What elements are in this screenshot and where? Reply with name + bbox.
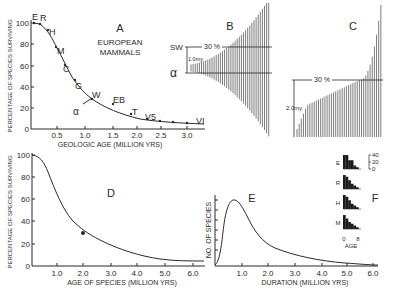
svg-text:20: 20: [20, 104, 29, 113]
svg-text:20: 20: [21, 240, 30, 249]
svg-text:2.0: 2.0: [77, 269, 89, 278]
panel-f-histograms: [343, 155, 361, 229]
svg-text:R: R: [336, 180, 341, 186]
panel-d-xlabel: AGE OF SPECIES (MILLION YRS): [67, 279, 177, 287]
svg-text:M: M: [336, 220, 341, 226]
panel-b-alpha: α: [170, 66, 177, 80]
svg-text:20: 20: [372, 159, 379, 165]
svg-text:60: 60: [21, 195, 30, 204]
panel-e-xlabel: DURATION (MILLION YRS): [262, 279, 349, 287]
svg-text:C: C: [63, 64, 70, 74]
panel-a-title-1: EUROPEAN: [98, 38, 143, 47]
svg-text:4.0: 4.0: [316, 269, 328, 278]
svg-text:8: 8: [356, 236, 360, 242]
panel-a: [31, 20, 205, 129]
svg-text:EB: EB: [113, 95, 125, 105]
panel-d-marker: [81, 231, 85, 235]
svg-text:G: G: [75, 81, 82, 91]
panel-c-label: C: [349, 20, 357, 32]
panel-a-title-2: MAMMALS: [100, 48, 140, 57]
svg-text:1.0: 1.0: [236, 269, 248, 278]
svg-text:6.0: 6.0: [187, 269, 199, 278]
svg-text:3.0: 3.0: [105, 269, 117, 278]
svg-text:1.5: 1.5: [107, 131, 119, 140]
panel-d-curve: [32, 155, 204, 261]
svg-text:80: 80: [20, 40, 29, 49]
svg-text:4.0: 4.0: [131, 269, 143, 278]
svg-text:5.0: 5.0: [159, 269, 171, 278]
panel-e-label: E: [248, 192, 255, 204]
panel-b-sw: SW: [170, 43, 183, 52]
panel-e-curve: [215, 200, 378, 265]
panel-a-y-ticklabels: 100 80 60 40 20 0: [16, 19, 30, 134]
svg-text:H: H: [336, 200, 340, 206]
panel-f-xlabel: AGE: [345, 243, 358, 249]
svg-text:T: T: [132, 107, 138, 117]
panel-f-label: F: [372, 192, 379, 204]
panel-a-alpha: α: [73, 106, 79, 117]
svg-text:3.0: 3.0: [181, 131, 193, 140]
panel-d-y-ticklabels: 100 80 60 40 20 0: [17, 151, 31, 271]
panel-d: [32, 153, 205, 266]
panel-a-xlabel: GEOLOGIC AGE (MILLION YRS): [58, 141, 163, 149]
panel-b-my: 1.0my: [188, 56, 203, 62]
svg-text:40: 40: [21, 217, 30, 226]
panel-f-y-ticklabels: 40 20 0: [372, 152, 379, 172]
panel-e-x-ticklabels: 1.0 2.0 3.0 4.0 5.0 6.0: [236, 269, 379, 278]
panel-b-label: B: [226, 20, 233, 32]
svg-text:0: 0: [372, 166, 376, 172]
svg-text:100: 100: [17, 151, 31, 160]
svg-text:M: M: [57, 46, 65, 56]
svg-text:VI: VI: [196, 116, 205, 126]
svg-text:0: 0: [25, 125, 30, 134]
panel-d-x-ticklabels: 1.0 2.0 3.0 4.0 5.0 6.0: [51, 269, 199, 278]
svg-text:H: H: [49, 27, 56, 37]
panel-d-ylabel: PERCENTAGE OF SPECIES SURVIVING: [7, 155, 13, 268]
panel-f-row-labels: E R H M: [336, 160, 341, 226]
alpha-pointer: [83, 98, 92, 104]
svg-text:0: 0: [342, 236, 346, 242]
panel-f-x-ticklabels: 0 8: [342, 236, 360, 242]
panel-c-pct: 30 %: [314, 76, 330, 83]
figure: 100 80 60 40 20 0 0.5 1.0 1.5 2.0 2.5 3.…: [0, 0, 393, 292]
svg-text:1.0: 1.0: [51, 269, 63, 278]
panel-a-x-ticklabels: 0.5 1.0 1.5 2.0 2.5 3.0: [51, 131, 193, 140]
svg-text:40: 40: [20, 83, 29, 92]
svg-text:40: 40: [372, 152, 379, 158]
panel-e-ylabel: NO. OF SPECIES: [205, 201, 212, 258]
svg-text:W: W: [92, 90, 101, 100]
panel-a-label: A: [116, 22, 124, 34]
panel-f-scale: [369, 155, 371, 169]
svg-text:100: 100: [16, 19, 30, 28]
svg-text:V5: V5: [145, 112, 156, 122]
figure-svg: 100 80 60 40 20 0 0.5 1.0 1.5 2.0 2.5 3.…: [0, 0, 393, 292]
svg-text:60: 60: [20, 62, 29, 71]
svg-text:80: 80: [21, 173, 30, 182]
svg-text:R: R: [40, 13, 47, 23]
svg-text:2.0: 2.0: [262, 269, 274, 278]
svg-text:0.5: 0.5: [51, 131, 63, 140]
svg-text:E: E: [336, 160, 340, 166]
svg-text:1.0: 1.0: [79, 131, 91, 140]
panel-b-pct: 30 %: [204, 43, 220, 50]
svg-text:5.0: 5.0: [341, 269, 353, 278]
panel-c-bars: [297, 5, 381, 137]
svg-text:6.0: 6.0: [367, 269, 379, 278]
panel-c-my: 2.0my: [286, 105, 302, 111]
svg-text:3.0: 3.0: [289, 269, 301, 278]
svg-text:E: E: [32, 12, 38, 22]
svg-text:2.0: 2.0: [131, 131, 143, 140]
panel-a-ylabel: PERCENTAGE OF SPECIES SURVIVING: [7, 19, 13, 132]
svg-text:0: 0: [26, 262, 31, 271]
svg-text:2.5: 2.5: [155, 131, 167, 140]
panel-d-label: D: [107, 187, 115, 199]
